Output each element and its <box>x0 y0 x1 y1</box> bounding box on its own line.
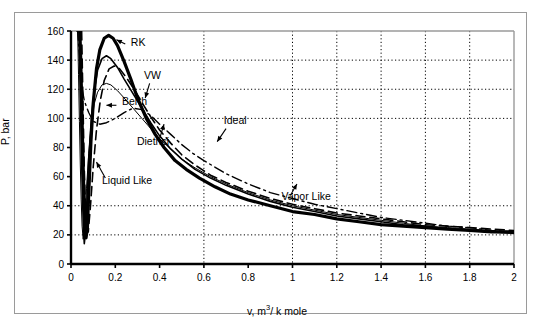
annotation-label-ideal: Ideal <box>224 114 247 126</box>
y-axis-title: P, bar <box>0 118 11 145</box>
y-tick-label: 100 <box>47 113 64 124</box>
y-tick-label: 60 <box>53 171 65 182</box>
y-tick-label: 160 <box>47 26 64 37</box>
y-tick-label: 20 <box>53 229 65 240</box>
annotation-label-vw: VW <box>144 69 161 81</box>
annotation-label-liquid-like: Liquid Like <box>102 174 152 186</box>
y-tick-label: 0 <box>58 259 64 270</box>
x-tick-label: 1.2 <box>330 272 344 283</box>
x-tick-label: 1.4 <box>374 272 388 283</box>
axis-layer <box>67 31 514 268</box>
x-tick-label: 0.6 <box>197 272 211 283</box>
y-tick-label: 120 <box>47 84 64 95</box>
annotation-label-vapor-like: Vapor Like <box>281 190 331 202</box>
annotation-label-berth: Berth <box>122 95 147 107</box>
figure-container: P, bar v, m3/ k mole 0204060801001201401… <box>0 0 543 327</box>
x-tick-label: 0.2 <box>108 272 122 283</box>
x-tick-label: 0 <box>68 272 74 283</box>
annotation-label-dietrici: Dietrici <box>137 135 169 147</box>
x-tick-label: 0.4 <box>153 272 167 283</box>
annotation-arrowhead <box>106 103 112 108</box>
plot-svg: 02040608010012014016000.20.40.60.811.21.… <box>15 13 526 313</box>
x-tick-label: 1.6 <box>418 272 432 283</box>
x-tick-label: 1 <box>290 272 296 283</box>
x-tick-label: 2 <box>511 272 517 283</box>
x-tick-label: 0.8 <box>241 272 255 283</box>
y-tick-label: 40 <box>53 200 65 211</box>
annotation-arrowhead <box>160 124 165 130</box>
y-tick-label: 80 <box>53 142 65 153</box>
x-tick-label: 1.8 <box>463 272 477 283</box>
tick-label-layer: 02040608010012014016000.20.40.60.811.21.… <box>47 26 517 284</box>
figure-outer-frame: P, bar v, m3/ k mole 0204060801001201401… <box>14 12 527 314</box>
y-tick-label: 140 <box>47 55 64 66</box>
annotation-arrowhead <box>217 136 222 142</box>
annotation-label-rk: RK <box>131 36 146 48</box>
